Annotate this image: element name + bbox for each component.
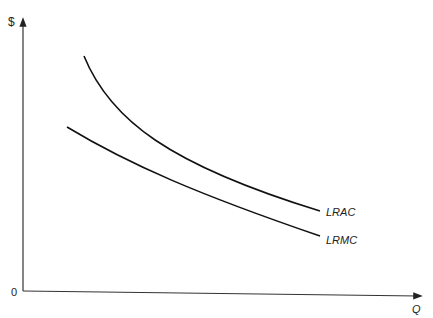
- x-axis-label: Q: [412, 303, 421, 315]
- lrmc-label: LRMC: [326, 234, 357, 246]
- lrac-label: LRAC: [326, 206, 355, 218]
- origin-label: 0: [11, 286, 17, 298]
- y-axis-label: $: [8, 15, 15, 29]
- lrac-curve: [84, 56, 320, 211]
- lrmc-curve: [67, 127, 320, 236]
- x-axis: [23, 291, 418, 296]
- cost-curves-chart: $ Q 0 LRAC LRMC: [0, 0, 433, 318]
